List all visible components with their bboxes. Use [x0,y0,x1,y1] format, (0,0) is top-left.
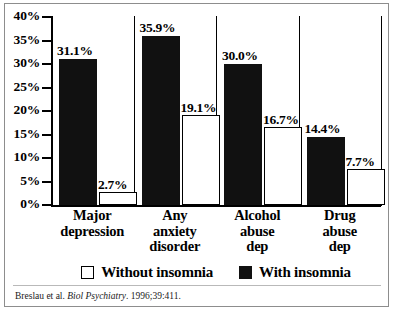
x-axis-category-label-line: abuse [299,224,382,240]
x-axis-category-label-line: disorder [134,239,217,255]
x-axis-category-label-line: depression [51,224,134,240]
y-axis-tick-mark [42,63,51,65]
y-axis-tick-label: 10% [14,149,40,165]
x-axis-category-labels: MajordepressionAnyanxietydisorderAlcohol… [51,208,381,260]
x-axis-category-label-line: Any [134,208,217,224]
y-axis-tick-label: 30% [14,55,40,71]
bar-value-label: 14.4% [305,121,341,136]
citation-source: . 1996;39:411. [126,291,181,301]
citation-journal: Biol Psychiatry [67,291,126,301]
x-axis-category-label: Alcoholabusedep [216,208,299,255]
y-axis-tick-mark [42,40,51,42]
bar: 2.7% [99,192,137,205]
bar-value-label: 19.1% [181,100,217,115]
y-axis-tick-mark [42,181,51,183]
citation-divider [13,285,381,286]
bar-value-label: 16.7% [263,112,299,127]
y-axis-tick-mark [42,110,51,112]
x-axis-category-label: Drugabusedep [299,208,382,255]
x-axis-category-label-line: anxiety [134,224,217,240]
legend-swatch-open-icon [81,266,94,279]
bar: 35.9% [142,36,180,205]
x-axis-category-label-line: dep [216,239,299,255]
y-axis-tick-label: 0% [20,196,40,212]
y-axis-tick-label: 15% [14,126,40,142]
y-axis-line [51,16,53,206]
bar-value-label: 2.7% [98,177,127,192]
x-axis-category-label-line: abuse [216,224,299,240]
citation-text: Breslau et al. Biol Psychiatry. 1996;39:… [15,290,181,302]
y-axis-tick-mark [42,157,51,159]
y-axis-tick-label: 25% [14,79,40,95]
bar: 7.7% [347,169,385,205]
bar-value-label: 30.0% [222,48,258,63]
x-axis-category-label-line: dep [299,239,382,255]
bar: 14.4% [307,137,345,205]
bar: 31.1% [59,59,97,205]
bar: 19.1% [182,115,220,205]
legend-item: With insomnia [239,264,351,280]
bar-value-label: 35.9% [140,20,176,35]
y-axis-tick-mark [42,16,51,18]
y-axis-tick-label: 35% [14,32,40,48]
citation-authors: Breslau et al. [15,291,65,301]
x-axis-category-label-line: Alcohol [216,208,299,224]
y-axis-tick-mark [42,204,51,206]
bar-value-label: 7.7% [346,154,375,169]
y-axis-tick-mark [42,87,51,89]
x-axis-category-label-line: Drug [299,208,382,224]
plot-area: 40%35%30%25%20%15%10%5%0% 31.1%2.7%35.9%… [51,16,381,206]
legend-item: Without insomnia [81,264,213,280]
x-axis-category-label: Anyanxietydisorder [134,208,217,255]
y-axis-tick-label: 40% [14,8,40,24]
bar: 16.7% [264,127,302,205]
bar-value-label: 31.1% [57,43,93,58]
chart-legend: Without insomniaWith insomnia [51,260,381,284]
y-axis-tick-label: 5% [20,173,40,189]
y-axis-tick-mark [42,134,51,136]
legend-label: Without insomnia [101,264,213,280]
figure-frame: 40%35%30%25%20%15%10%5%0% 31.1%2.7%35.9%… [4,3,389,307]
y-axis-tick-label: 20% [14,102,40,118]
figure-inner: 40%35%30%25%20%15%10%5%0% 31.1%2.7%35.9%… [5,4,388,306]
legend-label: With insomnia [259,264,351,280]
x-axis-category-label: Majordepression [51,208,134,239]
x-axis-category-label-line: Major [51,208,134,224]
group-separator-line [134,16,135,206]
bar: 30.0% [224,64,262,205]
legend-swatch-filled-icon [239,266,252,279]
